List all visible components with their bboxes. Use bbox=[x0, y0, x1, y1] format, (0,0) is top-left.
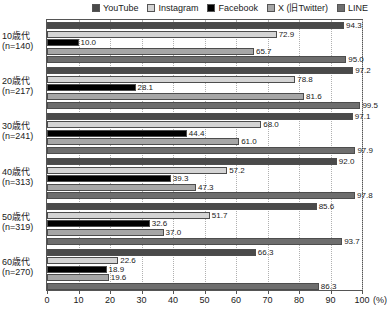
category-label: 20歳代(n=217) bbox=[2, 76, 42, 96]
bar-value-label: 97.2 bbox=[355, 66, 371, 75]
bar-value-label: 99.5 bbox=[362, 101, 378, 110]
bar-value-label: 81.6 bbox=[306, 92, 322, 101]
axis-tick-label: 40 bbox=[168, 295, 178, 305]
legend-item: YouTube bbox=[92, 3, 138, 13]
legend-item: Instagram bbox=[147, 3, 198, 13]
axis-tick bbox=[236, 291, 237, 294]
bar bbox=[47, 113, 353, 120]
bar bbox=[47, 158, 337, 165]
category-label-line1: 40歳代 bbox=[2, 167, 30, 177]
bar-value-label: 86.3 bbox=[321, 282, 337, 291]
bar-value-label: 68.0 bbox=[263, 120, 279, 129]
category-label-line1: 10歳代 bbox=[2, 31, 30, 41]
axis-tick-label: 70 bbox=[262, 295, 272, 305]
bar-row: 18.9 bbox=[47, 266, 362, 273]
category-label-line1: 20歳代 bbox=[2, 76, 30, 86]
axis-tick bbox=[110, 291, 111, 294]
axis-tick-label: 90 bbox=[325, 295, 335, 305]
value-axis: 0102030405060708090100(%) bbox=[46, 291, 363, 313]
legend-swatch-icon bbox=[207, 4, 215, 12]
bar-row: 86.3 bbox=[47, 283, 362, 290]
category-label-line2: (n=313) bbox=[2, 177, 42, 187]
bar-value-label: 85.6 bbox=[319, 202, 335, 211]
category-label-line2: (n=270) bbox=[2, 267, 42, 277]
bar bbox=[47, 249, 256, 256]
bar-row: 92.0 bbox=[47, 158, 362, 165]
axis-unit-label: (%) bbox=[373, 295, 387, 305]
bar bbox=[47, 175, 171, 182]
legend-item: LINE bbox=[337, 3, 368, 13]
bar bbox=[47, 274, 109, 281]
bar-value-label: 47.3 bbox=[198, 183, 214, 192]
legend-item-label: X (旧Twitter) bbox=[278, 3, 328, 13]
axis-tick bbox=[268, 291, 269, 294]
legend-item: Facebook bbox=[207, 3, 258, 13]
bar bbox=[47, 84, 136, 91]
axis-tick bbox=[331, 291, 332, 294]
category-label: 10歳代(n=140) bbox=[2, 31, 42, 51]
bar bbox=[47, 229, 164, 236]
category-label-line1: 60歳代 bbox=[2, 257, 30, 267]
axis-tick bbox=[142, 291, 143, 294]
axis-tick bbox=[362, 291, 363, 294]
bar-row: 93.7 bbox=[47, 238, 362, 245]
bar-value-label: 44.4 bbox=[189, 129, 205, 138]
bar bbox=[47, 31, 277, 38]
bar-row: 19.6 bbox=[47, 274, 362, 281]
bar bbox=[47, 22, 344, 29]
bar bbox=[47, 102, 360, 109]
axis-tick-label: 10 bbox=[73, 295, 83, 305]
bar bbox=[47, 67, 353, 74]
category-label-line2: (n=140) bbox=[2, 41, 42, 51]
bar-row: 95.0 bbox=[47, 56, 362, 63]
bar bbox=[47, 192, 355, 199]
category-label: 40歳代(n=313) bbox=[2, 167, 42, 187]
bar-value-label: 97.1 bbox=[355, 112, 371, 121]
bar-value-label: 57.2 bbox=[229, 166, 245, 175]
bar-row: 28.1 bbox=[47, 84, 362, 91]
axis-tick-label: 20 bbox=[105, 295, 115, 305]
category-label-line2: (n=217) bbox=[2, 86, 42, 96]
chart-legend: YouTubeInstagramFacebookX (旧Twitter)LINE bbox=[0, 0, 372, 16]
bar-group: 92.057.239.347.397.8 bbox=[47, 156, 362, 201]
bar-value-label: 97.9 bbox=[357, 146, 373, 155]
bar-row: 51.7 bbox=[47, 212, 362, 219]
bar-value-label: 66.3 bbox=[258, 248, 274, 257]
bar bbox=[47, 138, 239, 145]
bar bbox=[47, 283, 319, 290]
legend-item: X (旧Twitter) bbox=[267, 3, 328, 13]
bar-row: 32.6 bbox=[47, 220, 362, 227]
bar bbox=[47, 147, 355, 154]
bar bbox=[47, 130, 187, 137]
legend-item-label: YouTube bbox=[103, 3, 138, 13]
legend-swatch-icon bbox=[337, 4, 345, 12]
bar-value-label: 61.0 bbox=[241, 137, 257, 146]
category-label: 50歳代(n=319) bbox=[2, 212, 42, 232]
bar-row: 97.8 bbox=[47, 192, 362, 199]
bar-row: 97.1 bbox=[47, 113, 362, 120]
bar bbox=[47, 220, 150, 227]
bar bbox=[47, 257, 118, 264]
bar-row: 97.9 bbox=[47, 147, 362, 154]
bar-value-label: 95.0 bbox=[348, 55, 364, 64]
bar-row: 85.6 bbox=[47, 203, 362, 210]
axis-tick bbox=[47, 291, 48, 294]
bar bbox=[47, 167, 227, 174]
bar bbox=[47, 76, 295, 83]
axis-tick-label: 0 bbox=[44, 295, 49, 305]
category-label-line1: 30歳代 bbox=[2, 121, 30, 131]
bar-row: 99.5 bbox=[47, 102, 362, 109]
axis-tick-label: 30 bbox=[136, 295, 146, 305]
bar-value-label: 37.0 bbox=[166, 228, 182, 237]
category-label-line2: (n=319) bbox=[2, 222, 42, 232]
bar bbox=[47, 184, 196, 191]
bar bbox=[47, 93, 304, 100]
axis-tick bbox=[173, 291, 174, 294]
legend-swatch-icon bbox=[147, 4, 155, 12]
bar-value-label: 72.9 bbox=[279, 30, 295, 39]
bar-value-label: 10.0 bbox=[81, 38, 97, 47]
axis-tick-label: 50 bbox=[199, 295, 209, 305]
bar-row: 44.4 bbox=[47, 130, 362, 137]
bar-row: 39.3 bbox=[47, 175, 362, 182]
bar-row: 57.2 bbox=[47, 167, 362, 174]
